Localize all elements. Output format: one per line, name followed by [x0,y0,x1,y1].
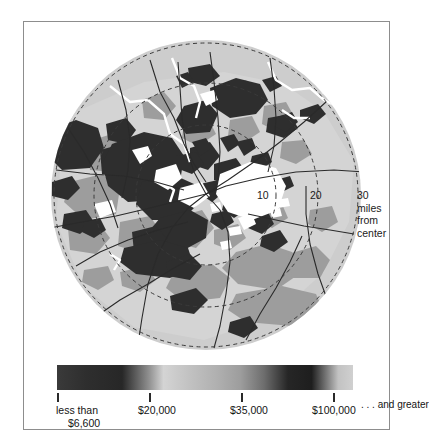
map-panel[interactable]: 10 20 30 miles from center [24,22,389,352]
legend-tick-2 [241,393,243,402]
legend-label-lowest: less than $6,600 [56,404,100,430]
radial-choropleth-map[interactable] [24,22,389,352]
legend-label-100000: $100,000 [312,404,356,417]
legend-label-and-greater: . . . and greater [361,398,429,411]
legend-tick-marks [24,393,389,402]
legend-label-lowest-line2: $6,600 [68,417,100,430]
legend-tick-3 [333,393,335,402]
ring-label-20-miles: 20 [310,189,322,202]
ring-label-units-center: center [357,227,386,239]
ring-label-units-from: from [357,214,378,226]
ring-label-30-miles-from-center: 30 miles from center [357,189,386,239]
legend-label-35000: $35,000 [230,404,268,417]
legend-tick-1 [149,393,151,402]
legend-tick-0 [57,393,59,402]
ring-label-units-miles: miles [357,202,382,214]
legend-gradient-bar [57,365,353,390]
ring-label-30-value: 30 [357,189,369,201]
legend: less than $6,600 $20,000 $35,000 $100,00… [24,352,389,431]
figure-frame: 10 20 30 miles from center less than $6,… [23,21,390,430]
legend-label-20000: $20,000 [138,404,176,417]
legend-label-lowest-line1: less than [56,404,98,416]
ring-label-10-miles: 10 [257,189,269,202]
